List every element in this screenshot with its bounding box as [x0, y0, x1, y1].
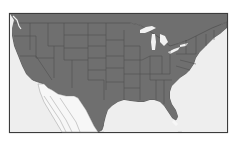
map-container — [0, 0, 235, 149]
us-map — [0, 0, 235, 149]
lake-michigan — [151, 34, 156, 50]
